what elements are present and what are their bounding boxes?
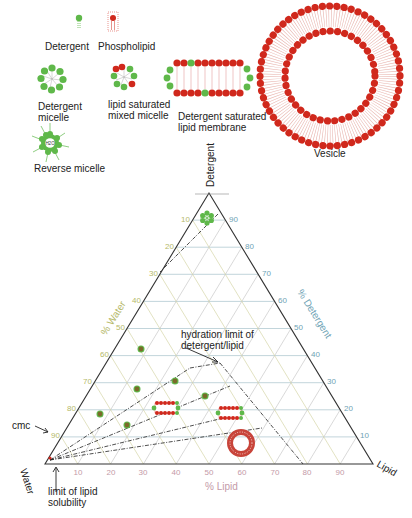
vesicle-icon [260, 6, 400, 146]
legend-vesicle-label: Vesicle [314, 148, 346, 159]
mixed-micelle-marker [124, 422, 131, 429]
phospholipid-monomer-icon [108, 12, 118, 31]
legend-detergent-micelle-label: Detergentmicelle [38, 101, 82, 123]
vertex-label-water: Water [18, 467, 37, 496]
svg-text:40: 40 [172, 468, 181, 477]
mixed-micelle-icon [111, 64, 138, 91]
saturated-membrane-marker [152, 401, 181, 415]
mixed-micelle-marker [202, 393, 209, 400]
svg-text:40: 40 [311, 350, 320, 359]
vertex-label-detergent: Detergent [205, 143, 216, 187]
svg-text:10: 10 [74, 468, 83, 477]
lipid-solubility-annotation: limit of lipidsolubility [48, 486, 97, 508]
svg-text:80: 80 [67, 404, 76, 413]
svg-text:40: 40 [132, 296, 141, 305]
svg-text:90: 90 [51, 431, 60, 440]
detergent-axis-title: % Detergent [295, 287, 334, 340]
cmc-annotation: cmc [12, 420, 30, 431]
lipid-tick-labels: 10 20 30 40 50 60 70 80 90 [74, 468, 345, 477]
legend-detergent-label: Detergent [45, 41, 89, 52]
reverse-micelle-icon: H2O [32, 123, 69, 162]
svg-text:70: 70 [271, 468, 280, 477]
svg-text:20: 20 [107, 468, 116, 477]
reverse-micelle-core-label: H2O [45, 141, 55, 146]
annotation-arrows [35, 348, 218, 492]
svg-text:50: 50 [205, 468, 214, 477]
svg-text:80: 80 [303, 468, 312, 477]
mixed-micelle-marker [97, 411, 104, 418]
svg-text:30: 30 [327, 377, 336, 386]
mixed-micelle-marker [134, 386, 141, 393]
svg-text:90: 90 [229, 215, 238, 224]
svg-text:60: 60 [278, 296, 287, 305]
detergent-monomer-icon [76, 15, 82, 29]
svg-text:60: 60 [100, 350, 109, 359]
svg-text:30: 30 [149, 269, 158, 278]
svg-text:50: 50 [116, 323, 125, 332]
mixed-micelle-marker [138, 346, 145, 353]
detergent-micelle-marker [200, 210, 214, 225]
svg-text:10: 10 [181, 215, 190, 224]
lipid-axis-title: % Lipid [205, 481, 238, 492]
legend-mixed-micelle-label: lipid saturatedmixed micelle [108, 99, 170, 121]
vertex-label-lipid: Lipid [375, 458, 399, 478]
svg-text:20: 20 [165, 242, 174, 251]
mixed-micelle-marker [172, 378, 179, 385]
svg-text:30: 30 [139, 468, 148, 477]
lipid-monomer-marker [48, 456, 51, 459]
vesicle-marker [230, 432, 252, 454]
detergent-tick-labels: 90 80 70 60 50 40 30 20 10 [229, 215, 369, 440]
detergent-micelle-icon [37, 64, 66, 93]
saturated-membrane-marker [216, 406, 245, 420]
hydration-limit-annotation: hydration limit ofdetergent/lipid [181, 329, 254, 351]
svg-text:50: 50 [294, 323, 303, 332]
svg-text:10: 10 [360, 431, 369, 440]
svg-text:60: 60 [238, 468, 247, 477]
legend-saturated-membrane-label: Detergent saturatedlipid membrane [178, 111, 266, 133]
legend-reverse-micelle-label: Reverse micelle [34, 163, 105, 174]
svg-text:70: 70 [262, 269, 271, 278]
svg-text:20: 20 [344, 404, 353, 413]
svg-text:90: 90 [336, 468, 345, 477]
ternary-phase-diagram: H2O [0, 0, 412, 518]
saturated-membrane-icon [164, 59, 254, 96]
legend-phospholipid-label: Phospholipid [98, 41, 155, 52]
svg-text:70: 70 [83, 377, 92, 386]
svg-text:80: 80 [245, 242, 254, 251]
